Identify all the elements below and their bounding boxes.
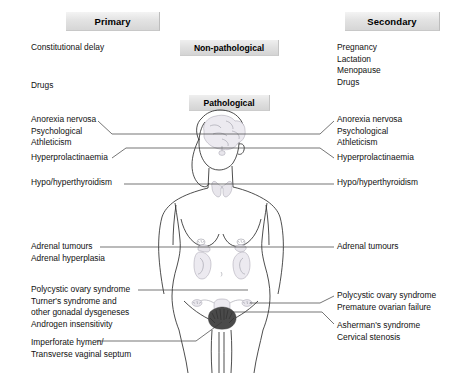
leader-lines-right [224,121,334,324]
right-item-drugs: Drugs [337,77,381,89]
category-non-pathological-label: Non-pathological [194,43,264,53]
right-item-menopause: Menopause [337,65,381,77]
right-group-ovarian: Polycystic ovary syndrome Premature ovar… [337,290,436,313]
right-uterine-line-1: Asherman's syndrome [337,320,420,332]
left-group-pituitary: Hyperprolactinaemia [31,152,108,164]
left-group-outflow-tract: Imperforate hymen/ Transverse vaginal se… [31,337,131,360]
category-pathological-label: Pathological [203,98,254,108]
leader-left-hypothalamic [98,121,225,134]
category-pathological: Pathological [189,95,270,111]
left-group-ovarian: Polycystic ovary syndrome Turner's syndr… [31,284,130,330]
left-ovarian-line-4: Androgen insensitivity [31,319,130,331]
right-adrenal-line-1: Adrenal tumours [337,241,398,253]
left-group-hypothalamic: Anorexia nervosa Psychological Athletici… [31,114,96,149]
brain-icon [204,115,246,155]
right-hypothalamic-line-2: Psychological [337,126,402,138]
right-item-pregnancy: Pregnancy [337,42,381,54]
right-group-non-pathological: Pregnancy Lactation Menopause Drugs [337,42,381,88]
right-group-pituitary: Hyperprolactinaemia [337,152,414,164]
header-primary: Primary [66,12,160,31]
leader-right-hypothalamic [225,121,334,134]
left-ovarian-line-3: other gonadal dysgeneses [31,307,130,319]
leader-right-uterine [230,312,334,324]
right-group-adrenal: Adrenal tumours [337,241,398,253]
left-ovarian-line-1: Polycystic ovary syndrome [31,284,130,296]
uterus-ovaries-icon [192,299,252,329]
left-outflow-line-2: Transverse vaginal septum [31,349,131,361]
right-group-hypothalamic: Anorexia nervosa Psychological Athletici… [337,114,402,149]
header-primary-label: Primary [94,16,130,27]
adrenal-kidney-icon [194,245,250,279]
header-secondary: Secondary [345,12,440,31]
right-thyroid-line-1: Hypo/hyperthyroidism [337,177,418,189]
right-hypothalamic-line-1: Anorexia nervosa [337,114,402,126]
header-secondary-label: Secondary [367,16,416,27]
right-item-lactation: Lactation [337,54,381,66]
leader-right-pituitary [236,148,334,158]
diagram-canvas: Primary Secondary Non-pathological Patho… [0,0,453,373]
left-adrenal-line-1: Adrenal tumours [31,241,105,253]
right-ovarian-line-1: Polycystic ovary syndrome [337,290,436,302]
right-group-uterine: Asherman's syndrome Cervical stenosis [337,320,420,343]
left-outflow-line-1: Imperforate hymen/ [31,337,131,349]
left-pituitary-line-1: Hyperprolactinaemia [31,152,108,164]
left-hypothalamic-line-2: Psychological [31,126,96,138]
left-hypothalamic-line-3: Athleticism [31,137,96,149]
left-item-drugs: Drugs [31,80,53,92]
left-thyroid-line-1: Hypo/hyperthyroidism [31,177,112,189]
right-ovarian-line-2: Premature ovarian failure [337,302,436,314]
left-item-constitutional-delay: Constitutional delay [31,42,104,54]
leader-right-ovarian [250,296,334,303]
leader-left-pituitary [112,148,236,158]
right-pituitary-line-1: Hyperprolactinaemia [337,152,414,164]
left-ovarian-line-2: Turner's syndrome and [31,296,130,308]
left-group-thyroid: Hypo/hyperthyroidism [31,177,112,189]
right-hypothalamic-line-3: Athleticism [337,137,402,149]
left-group-adrenal: Adrenal tumours Adrenal hyperplasia [31,241,105,264]
category-non-pathological: Non-pathological [180,40,279,56]
left-hypothalamic-line-1: Anorexia nervosa [31,114,96,126]
right-uterine-line-2: Cervical stenosis [337,332,420,344]
body-outline-icon [159,110,284,373]
left-adrenal-line-2: Adrenal hyperplasia [31,253,105,265]
right-group-thyroid: Hypo/hyperthyroidism [337,177,418,189]
thyroid-icon [212,181,233,197]
